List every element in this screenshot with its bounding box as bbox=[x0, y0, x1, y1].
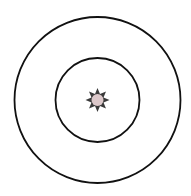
concentric-circles-diagram bbox=[0, 0, 191, 196]
center-marker bbox=[86, 88, 110, 112]
center-core bbox=[92, 94, 104, 106]
